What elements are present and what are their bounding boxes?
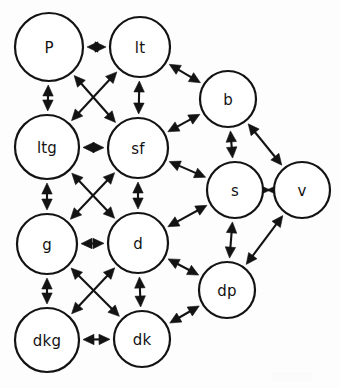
node-label-v: v: [297, 182, 306, 200]
arrowhead-to-dp: [225, 247, 235, 258]
node-label-ltg: ltg: [37, 139, 57, 157]
node-label-sf: sf: [131, 140, 145, 158]
node-dk[interactable]: dk: [114, 311, 170, 367]
node-label-dkg: dkg: [33, 332, 61, 350]
edge-s-dp: [225, 222, 237, 258]
edge-ltg-g: [42, 183, 52, 210]
arrowhead-to-sf: [134, 103, 144, 114]
edge-P-ltg: [43, 85, 53, 111]
node-label-s: s: [231, 182, 239, 200]
node-ltg[interactable]: ltg: [15, 115, 79, 179]
node-dkg[interactable]: dkg: [15, 308, 79, 372]
arrowhead-to-sf: [133, 182, 143, 193]
arrowhead-to-P: [43, 85, 53, 96]
edge-b-v: [248, 124, 282, 165]
node-label-P: P: [44, 39, 53, 57]
arrowhead-to-g: [42, 199, 52, 210]
arrowhead-to-d: [93, 238, 104, 248]
node-label-g: g: [42, 236, 52, 254]
graph-svg: Pltbltgsfsvgddpdkgdk: [0, 0, 340, 388]
edge-d-dp: [168, 259, 199, 275]
arrowhead-to-P: [87, 42, 98, 52]
arrowhead-to-s: [226, 222, 236, 233]
arrowhead-to-s: [193, 168, 205, 178]
watermark: [272, 372, 312, 381]
node-label-lt: lt: [135, 39, 145, 57]
edge-b-s: [226, 131, 237, 158]
node-v[interactable]: v: [274, 162, 330, 218]
node-P[interactable]: P: [15, 13, 83, 81]
arrowhead-to-d: [133, 198, 143, 209]
arrowhead-to-g: [42, 278, 52, 289]
arrowhead-to-sf: [169, 161, 181, 171]
arrowhead-to-dk: [99, 334, 110, 344]
node-sf[interactable]: sf: [108, 118, 168, 178]
arrowhead-to-lt: [134, 81, 144, 92]
edge-g-d: [81, 238, 104, 248]
edge-line: [78, 80, 111, 118]
edge-sf-d: [133, 182, 143, 209]
arrowhead-to-d: [135, 277, 145, 288]
node-d[interactable]: d: [108, 213, 168, 273]
edge-line: [75, 272, 115, 312]
edge-line: [250, 220, 279, 259]
edge-dkg-dk: [83, 334, 110, 344]
arrowhead-to-dkg: [42, 293, 52, 304]
node-label-b: b: [223, 91, 233, 109]
edge-s-d: [168, 205, 207, 226]
edge-sf-b: [168, 114, 200, 131]
node-g[interactable]: g: [17, 214, 77, 274]
edge-P-lt: [87, 42, 106, 52]
arrowhead-to-g: [81, 238, 92, 248]
node-lt[interactable]: lt: [110, 17, 170, 77]
arrowhead-to-ltg: [83, 142, 94, 152]
edge-lt-sf: [134, 81, 145, 114]
node-dp[interactable]: dp: [199, 262, 255, 318]
node-s[interactable]: s: [207, 162, 263, 218]
edge-ltg-sf: [83, 142, 104, 152]
arrowhead-to-ltg: [42, 183, 52, 194]
edge-line: [252, 129, 278, 161]
edge-g-dkg: [42, 278, 52, 304]
arrowhead-to-b: [226, 131, 236, 142]
arrowhead-to-dp: [246, 252, 257, 264]
diagram-canvas: Pltbltgsfsvgddpdkgdk: [0, 0, 340, 388]
arrowhead-to-sf: [93, 142, 104, 152]
arrowhead-to-v: [272, 216, 283, 228]
edge-v-dp: [246, 216, 283, 265]
arrowhead-to-s: [227, 147, 237, 158]
arrowhead-to-dk: [135, 296, 145, 307]
edge-d-dk: [135, 277, 146, 307]
edge-sf-s: [169, 161, 205, 178]
node-b[interactable]: b: [200, 71, 256, 127]
arrowhead-to-dkg: [83, 334, 94, 344]
node-label-dp: dp: [217, 282, 236, 300]
arrowhead-to-ltg: [43, 100, 53, 111]
node-label-dk: dk: [133, 331, 152, 349]
edge-lt-b: [169, 64, 200, 82]
edge-dk-dp: [170, 306, 200, 323]
node-label-d: d: [133, 235, 143, 253]
